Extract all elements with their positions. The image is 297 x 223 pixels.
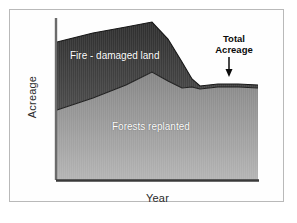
- series-label-forests-replanted: Forests replanted: [112, 121, 190, 132]
- annotation-total-acreage: Total Acreage: [206, 33, 262, 55]
- series-label-fire-damaged: Fire - damaged land: [70, 50, 160, 61]
- annotation-line-1: Total: [206, 33, 262, 44]
- x-axis-label-wrap: Year: [55, 188, 260, 206]
- y-axis-label: Acreage: [26, 76, 38, 118]
- y-axis-label-wrap: Acreage: [22, 57, 40, 137]
- down-arrow-icon: [226, 57, 233, 77]
- x-axis-label: Year: [146, 192, 169, 204]
- figure-container: Fire - damaged land Forests replanted To…: [0, 0, 297, 223]
- annotation-line-2: Acreage: [206, 44, 262, 55]
